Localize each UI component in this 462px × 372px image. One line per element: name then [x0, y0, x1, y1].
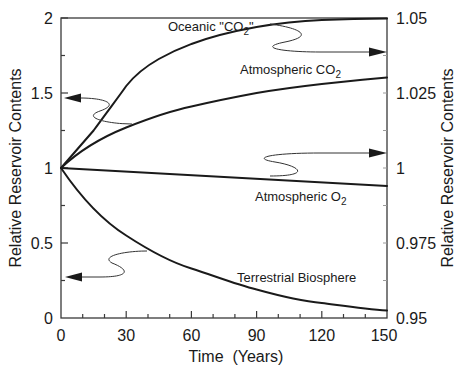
- x-axis-title: Time (Years): [189, 348, 284, 365]
- label-oceanic-co2: Oceanic "CO2": [168, 19, 254, 37]
- svg-text:30: 30: [117, 327, 135, 344]
- label-atmospheric-o2: Atmospheric O2: [255, 189, 347, 207]
- svg-text:1.05: 1.05: [396, 10, 427, 27]
- svg-text:0.975: 0.975: [396, 235, 436, 252]
- svg-text:1.025: 1.025: [396, 85, 436, 102]
- svg-text:1: 1: [44, 160, 53, 177]
- arrow-atm-co2-to-left-axis: [73, 98, 132, 124]
- arrow-terrestrial-to-left-axis: [74, 251, 147, 277]
- label-atmospheric-co2: Atmospheric CO2: [240, 62, 341, 80]
- left-axis-ticks: [61, 18, 68, 281]
- svg-text:1.5: 1.5: [31, 85, 53, 102]
- y-axis-title-left: Relative Reservoir Contents: [7, 68, 24, 267]
- svg-text:90: 90: [248, 327, 266, 344]
- right-tick-labels: 1.05 1.025 1 0.975 0.95: [396, 10, 436, 327]
- svg-text:0.5: 0.5: [31, 235, 53, 252]
- arrow-oceanic-to-right-axis: [270, 24, 371, 52]
- chart: 2 1.5 1 0.5 0 1.05 1.025 1 0.975 0.95 0 …: [0, 0, 462, 372]
- x-tick-labels: 0 30 60 90 120 150: [57, 327, 398, 344]
- arrow-atm-o2-to-right-axis: [264, 153, 371, 176]
- arrowhead-right-icon: [369, 149, 387, 158]
- svg-text:1: 1: [396, 160, 405, 177]
- y-axis-title-right: Relative Reservoir Contents: [439, 68, 456, 267]
- series-atmospheric-o2: [61, 168, 387, 186]
- svg-text:60: 60: [183, 327, 201, 344]
- arrowhead-left-icon: [64, 94, 81, 103]
- arrowhead-left-icon: [65, 273, 82, 282]
- label-terrestrial-biosphere: Terrestrial Biosphere: [237, 270, 356, 285]
- svg-text:0: 0: [44, 310, 53, 327]
- svg-text:2: 2: [44, 10, 53, 27]
- left-tick-labels: 2 1.5 1 0.5 0: [31, 10, 53, 327]
- svg-text:0.95: 0.95: [396, 310, 427, 327]
- svg-text:0: 0: [57, 327, 66, 344]
- svg-text:120: 120: [308, 327, 335, 344]
- series-oceanic-co2: [61, 19, 387, 169]
- x-axis-ticks: [83, 311, 366, 318]
- svg-text:150: 150: [371, 327, 398, 344]
